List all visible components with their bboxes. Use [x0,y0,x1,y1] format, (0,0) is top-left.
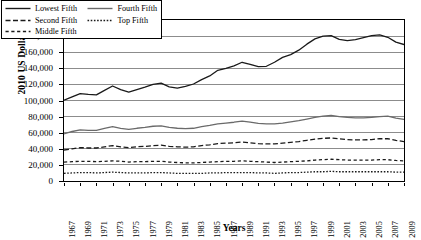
series-line [64,138,404,150]
x-tick-mark [242,183,243,186]
x-tick-mark [177,183,178,186]
x-tick-mark [129,183,130,186]
legend-label: Second Fifth [35,16,77,25]
legend-swatch-icon [87,4,113,13]
x-tick-mark [113,183,114,186]
legend-swatch-icon [5,27,31,36]
series-line [64,35,404,100]
legend-row: Second FifthTop Fifth [5,15,158,27]
legend-row: Lowest FifthFourth Fifth [5,3,158,15]
legend-swatch-icon [87,16,113,25]
series-line [64,159,404,163]
x-tick-mark [274,183,275,186]
legend-label: Fourth Fifth [117,4,157,13]
x-tick-mark [355,183,356,186]
legend-entry[interactable]: Fourth Fifth [87,3,158,15]
x-tick-mark [64,183,65,186]
legend-entry[interactable]: Lowest Fifth [5,3,87,15]
y-tick-label: 40,000 [28,144,53,154]
x-tick-mark [307,183,308,186]
legend-line-icon [87,4,113,13]
x-tick-label: 2009 [408,221,417,238]
legend-swatch-icon [5,16,31,25]
y-tick-label: 60,000 [28,128,53,138]
y-tick-label: 160,000 [24,47,53,57]
x-tick-mark [226,183,227,186]
legend-line-icon [87,16,113,25]
series-line [64,171,404,173]
legend-entry[interactable]: Second Fifth [5,15,87,27]
x-tick-mark [388,183,389,186]
x-tick-mark [404,183,405,186]
legend-label: Lowest Fifth [35,4,77,13]
y-tick-label: 20,000 [28,160,53,170]
legend-entry[interactable]: Top Fifth [87,15,158,27]
x-tick-mark [194,183,195,186]
series-line [64,115,404,134]
x-tick-mark [210,183,211,186]
y-tick-label: 120,000 [24,79,53,89]
legend-row: Middle Fifth [5,26,158,38]
legend-label: Top Fifth [117,16,148,25]
y-tick-label: 80,000 [28,112,53,122]
legend-line-icon [5,27,31,36]
y-tick-label: 140,000 [24,63,53,73]
legend-line-icon [5,4,31,13]
legend-label: Middle Fifth [35,27,77,36]
x-tick-mark [258,183,259,186]
y-tick-label: 0 [49,176,54,186]
legend-line-icon [5,16,31,25]
x-tick-mark [339,183,340,186]
x-axis-title: Years [63,223,405,233]
x-tick-mark [372,183,373,186]
x-tick-mark [291,183,292,186]
x-axis-tick-labels: 1967196919711973197519771979198119831985… [63,183,405,223]
x-tick-mark [161,183,162,186]
x-tick-mark [145,183,146,186]
plot-svg [64,20,404,181]
legend-entry[interactable]: Middle Fifth [5,26,89,38]
x-tick-mark [96,183,97,186]
chart-legend: Lowest FifthFourth FifthSecond FifthTop … [1,0,162,39]
plot-area [63,19,405,182]
x-tick-mark [323,183,324,186]
line-chart: 2010 US Dollars 020,00040,00060,00080,00… [0,0,421,240]
legend-swatch-icon [5,4,31,13]
y-tick-label: 100,000 [24,96,53,106]
x-tick-mark [80,183,81,186]
